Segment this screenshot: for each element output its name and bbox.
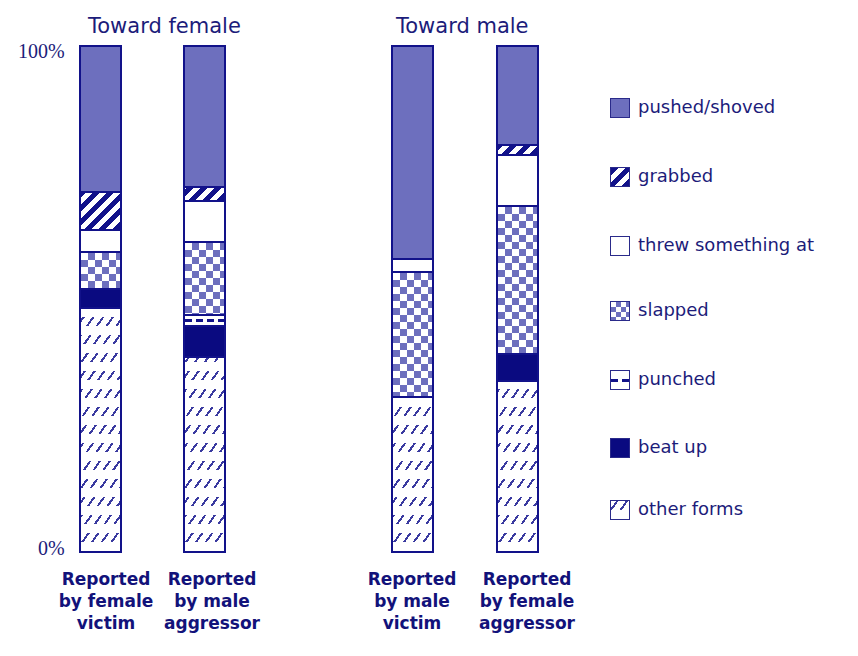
legend-label: threw something at: [638, 234, 814, 256]
bar-segment-slapped: [498, 205, 537, 353]
legend-label: pushed/shoved: [638, 96, 775, 118]
stacked-bar: [391, 45, 434, 553]
category-label: Reportedby maleaggressor: [152, 568, 272, 634]
bar-segment-other-forms: [393, 396, 432, 551]
y-axis-bottom-label: 0%: [38, 537, 65, 560]
legend-label: grabbed: [638, 165, 713, 187]
bar-segment-grabbed: [81, 191, 120, 229]
legend-label: other forms: [638, 498, 743, 520]
bar-segment-punched: [185, 314, 224, 325]
stacked-bar: [183, 45, 226, 553]
stacked-bar: [79, 45, 122, 553]
bar-segment-pushed: [393, 47, 432, 258]
bar-segment-pushed: [498, 47, 537, 144]
other-forms-swatch-icon: [610, 500, 630, 520]
bar-segment-grabbed: [185, 186, 224, 200]
bar-segment-other-forms: [185, 356, 224, 551]
category-label: Reportedby femaleaggressor: [467, 568, 587, 634]
bar-segment-beat-up: [498, 353, 537, 380]
bar-segment-pushed: [81, 47, 120, 191]
punched-swatch-icon: [610, 370, 630, 390]
stacked-bar: [496, 45, 539, 553]
grabbed-swatch-icon: [610, 167, 630, 187]
bar-segment-slapped: [185, 241, 224, 315]
bar-segment-threw: [393, 258, 432, 270]
bar-segment-threw: [81, 229, 120, 251]
bar-segment-pushed: [185, 47, 224, 186]
threw-swatch-icon: [610, 236, 630, 256]
bar-segment-threw: [498, 154, 537, 205]
category-label: Reportedby malevictim: [352, 568, 472, 634]
beat-up-swatch-icon: [610, 438, 630, 458]
pushed-swatch-icon: [610, 98, 630, 118]
bar-segment-other-forms: [81, 307, 120, 551]
category-label: Reportedby femalevictim: [46, 568, 166, 634]
group-title-female: Toward female: [88, 14, 241, 38]
bar-segment-beat-up: [185, 325, 224, 356]
bar-segment-slapped: [81, 251, 120, 288]
bar-segment-beat-up: [81, 288, 120, 308]
bar-segment-other-forms: [498, 380, 537, 551]
bar-segment-grabbed: [498, 144, 537, 154]
legend-label: slapped: [638, 299, 709, 321]
bar-segment-threw: [185, 200, 224, 241]
bar-segment-slapped: [393, 271, 432, 396]
legend-label: punched: [638, 368, 716, 390]
legend-label: beat up: [638, 436, 707, 458]
group-title-male: Toward male: [396, 14, 529, 38]
slapped-swatch-icon: [610, 301, 630, 321]
y-axis-top-label: 100%: [18, 40, 65, 63]
